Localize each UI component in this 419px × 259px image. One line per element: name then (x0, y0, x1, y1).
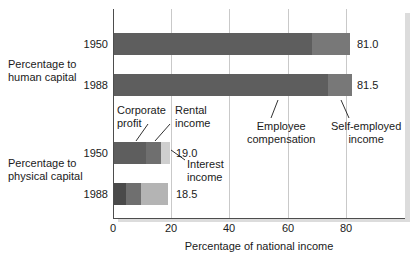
segment-employee-compensation (114, 33, 312, 55)
year-label-physical-1988: 1988 (74, 183, 108, 205)
x-axis-line (113, 218, 405, 219)
callout-interest-income: Interest income (187, 158, 224, 183)
bar-value-physical-1988: 18.5 (176, 183, 197, 205)
x-axis-label: Percentage of national income (113, 240, 405, 252)
group-label-human-capital: Percentage to human capital (8, 58, 103, 84)
callout-employee-compensation: Employee compensation (247, 120, 316, 145)
segment-self-employed-income (328, 74, 352, 96)
bar-human-1950 (114, 33, 350, 55)
segment-corporate-profit (114, 183, 126, 205)
segment-rental-income (126, 183, 141, 205)
callout-corporate-profit: Corporate profit (117, 104, 166, 129)
bar-physical-1988 (114, 183, 168, 205)
segment-employee-compensation (114, 74, 328, 96)
segment-interest-income (141, 183, 168, 205)
segment-interest-income (161, 142, 170, 164)
segment-corporate-profit (114, 142, 146, 164)
callout-rental-income: Rental income (175, 104, 210, 129)
chart-figure: 81.0 81.5 19.0 18.5 1950 1988 1950 1988 … (0, 0, 419, 259)
callout-self-employed-income: Self-employed income (331, 120, 401, 145)
xtick-60: 60 (273, 222, 303, 234)
xtick-20: 20 (156, 222, 186, 234)
bar-value-human-1950: 81.0 (357, 33, 378, 55)
xtick-40: 40 (214, 222, 244, 234)
group-label-physical-capital: Percentage to physical capital (8, 157, 103, 183)
bar-physical-1950 (114, 142, 170, 164)
segment-rental-income (146, 142, 161, 164)
xtick-80: 80 (331, 222, 361, 234)
year-label-human-1950: 1950 (74, 33, 108, 55)
bar-value-human-1988: 81.5 (357, 74, 378, 96)
xtick-0: 0 (98, 222, 128, 234)
bar-human-1988 (114, 74, 352, 96)
segment-self-employed-income (312, 33, 350, 55)
